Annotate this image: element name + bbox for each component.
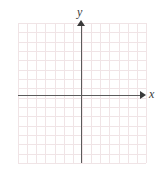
y-axis-line <box>81 25 82 163</box>
grid-line-horizontal <box>18 79 146 80</box>
grid-line-horizontal <box>18 32 146 33</box>
graph-canvas: x y <box>0 0 161 172</box>
x-axis-arrow-icon <box>140 91 146 99</box>
y-axis-arrow-icon <box>77 20 85 26</box>
y-axis-label: y <box>77 6 82 18</box>
grid-line-horizontal <box>18 98 146 99</box>
grid-line-horizontal <box>18 144 146 145</box>
grid-line-horizontal <box>18 51 146 52</box>
grid-line-horizontal <box>18 88 146 89</box>
grid-line-horizontal <box>18 42 146 43</box>
grid-line-horizontal <box>18 70 146 71</box>
x-axis-label: x <box>149 88 154 100</box>
grid-line-horizontal <box>18 126 146 127</box>
grid-horizontal-lines <box>18 23 146 163</box>
grid-line-horizontal <box>18 154 146 155</box>
grid-line-horizontal <box>18 107 146 108</box>
grid-line-horizontal <box>18 60 146 61</box>
grid-line-horizontal <box>18 116 146 117</box>
grid-line-horizontal <box>18 163 146 164</box>
coordinate-grid <box>18 23 146 163</box>
grid-line-horizontal <box>18 135 146 136</box>
grid-line-vertical <box>146 23 147 163</box>
